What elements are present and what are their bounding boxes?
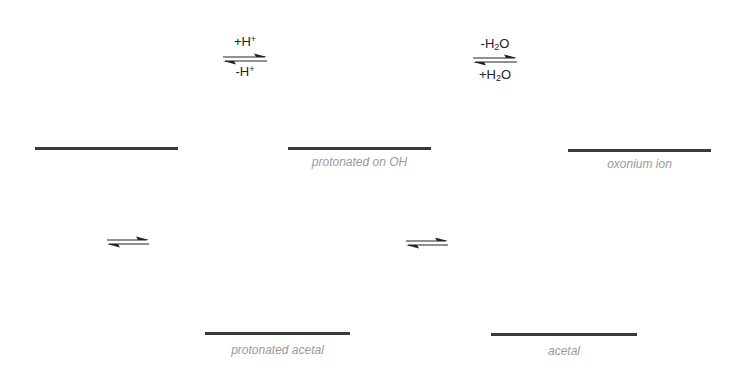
eq1-forward-charge: + (251, 34, 256, 44)
species-bar-protonated-oh (288, 147, 431, 150)
eq2-forward-condition: -H2O (465, 36, 525, 52)
species-bar-acetal (491, 333, 637, 336)
eq2-forward-a: -H (481, 36, 495, 51)
equilibrium-arrow-icon (104, 235, 152, 249)
species-label-acetal: acetal (491, 344, 637, 358)
species-label-protonated-acetal: protonated acetal (205, 343, 350, 357)
species-bar-hemiacetal (35, 147, 178, 150)
eq1-forward-main: +H (234, 34, 251, 49)
equilibrium-arrow-icon (403, 236, 451, 250)
species-label-oxonium: oxonium ion (568, 157, 711, 171)
eq1-reverse-charge: + (249, 64, 254, 74)
equilibrium-arrow-icon (470, 53, 520, 67)
eq2-reverse-a: +H (479, 67, 496, 82)
eq1-reverse-condition: -H+ (215, 64, 275, 79)
eq1-reverse-main: -H (236, 64, 250, 79)
species-bar-protonated-acetal (205, 332, 350, 335)
species-bar-oxonium (568, 149, 711, 152)
species-label-protonated-oh: protonated on OH (288, 155, 431, 169)
eq2-reverse-b: O (501, 67, 511, 82)
eq1-forward-condition: +H+ (215, 34, 275, 49)
eq2-reverse-condition: +H2O (465, 67, 525, 83)
eq2-forward-b: O (499, 36, 509, 51)
